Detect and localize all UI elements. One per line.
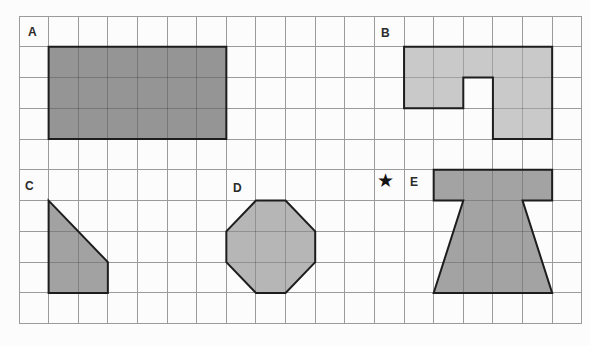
shape-D <box>226 201 315 293</box>
worksheet-page: ABCDE★ <box>0 0 590 346</box>
shape-B <box>404 47 552 139</box>
star-icon: ★ <box>377 169 394 191</box>
shape-label-A: A <box>28 25 37 39</box>
shape-label-E: E <box>410 175 418 189</box>
shape-label-D: D <box>233 181 242 195</box>
shape-label-B: B <box>381 26 390 40</box>
shape-label-C: C <box>25 179 34 193</box>
shapes-grid-canvas: ABCDE★ <box>0 0 590 346</box>
